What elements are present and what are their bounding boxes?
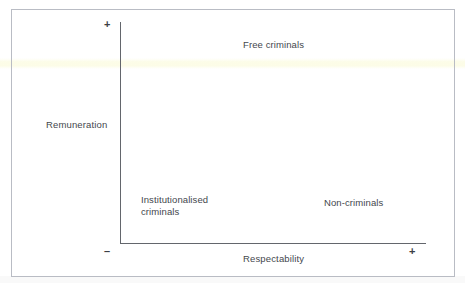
- y-axis-label: Remuneration: [46, 119, 107, 130]
- x-axis-plus-marker: +: [409, 246, 415, 257]
- y-axis-line: [120, 22, 121, 244]
- quadrant-chart: Remuneration Respectability + – + Free c…: [0, 0, 465, 283]
- diagram-page: Remuneration Respectability + – + Free c…: [0, 0, 465, 283]
- y-axis-plus-marker: +: [104, 19, 110, 30]
- x-axis-label: Respectability: [243, 253, 304, 264]
- x-axis-minus-marker: –: [104, 246, 110, 257]
- quadrant-label-institutionalised-criminals: Institutionalised criminals: [141, 194, 208, 217]
- x-axis-line: [120, 243, 426, 244]
- quadrant-label-non-criminals: Non-criminals: [324, 197, 383, 209]
- quadrant-label-free-criminals: Free criminals: [243, 39, 304, 51]
